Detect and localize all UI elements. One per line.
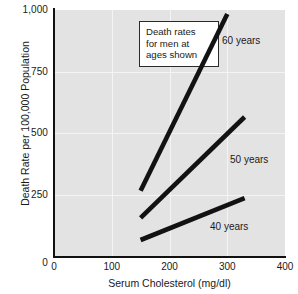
series-label-40-years: 40 years <box>210 222 248 232</box>
series-label-50-years: 50 years <box>230 155 268 165</box>
series-label-60-years: 60 years <box>222 36 260 46</box>
chart-figure: Death rates for men at ages shown 1,000 … <box>0 0 298 294</box>
series-line-60-years <box>141 14 228 191</box>
